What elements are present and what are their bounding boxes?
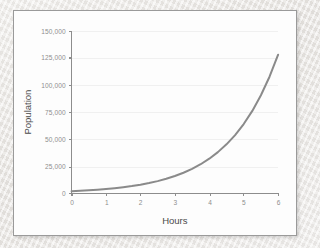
y-tick-label: 150,000 [41, 28, 66, 35]
x-tick-label: 6 [277, 199, 281, 206]
x-tick-label: 1 [105, 199, 109, 206]
y-tick-label: 50,000 [45, 136, 66, 143]
x-tick-label: 3 [173, 199, 177, 206]
y-axis-title: Population [22, 90, 33, 135]
x-axis-title: Hours [162, 215, 188, 226]
population-curve [72, 55, 279, 192]
population-growth-chart: 025,00050,00075,000100,000125,000150,000… [14, 11, 296, 235]
x-tick-label: 2 [139, 199, 143, 206]
y-tick-label: 25,000 [45, 163, 66, 170]
chart-panel: 025,00050,00075,000100,000125,000150,000… [13, 10, 297, 236]
y-tick-label: 125,000 [41, 54, 66, 61]
x-tick-label: 4 [208, 199, 212, 206]
y-tick-label: 0 [62, 190, 66, 197]
x-tick-label: 5 [242, 199, 246, 206]
y-tick-label: 100,000 [41, 82, 66, 89]
x-tick-label: 0 [70, 199, 74, 206]
y-tick-label: 75,000 [45, 109, 66, 116]
grid-lines [72, 31, 279, 167]
